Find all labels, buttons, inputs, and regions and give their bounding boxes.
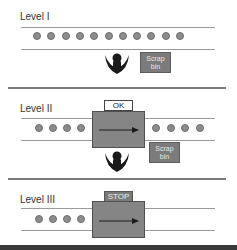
part-ball [49,124,57,132]
part-ball [35,215,43,223]
part-ball [167,124,175,132]
machine-box [92,111,145,148]
part-ball [119,32,127,40]
part-ball [90,32,98,40]
part-ball [181,124,189,132]
conveyor-top-line [21,27,215,28]
part-ball [35,124,43,132]
flow-arrow-icon [99,217,139,225]
part-ball [77,124,85,132]
part-ball [33,32,41,40]
scrap-bin: Scrap bin [149,142,180,163]
bottom-border [0,245,237,250]
part-ball [62,32,70,40]
part-ball [77,215,85,223]
scrap-bin-label-line2: bin [150,153,179,161]
scrap-bin-label-line1: Scrap [141,55,170,63]
machine-box [92,201,145,238]
part-ball [49,215,57,223]
operator-icon [103,150,131,174]
part-ball [47,32,55,40]
scrap-bin-label-line2: bin [141,63,170,71]
part-ball [196,124,204,132]
operator-icon [103,52,131,76]
level-3-label: Level III [20,194,55,205]
part-ball [133,32,141,40]
part-ball [147,32,155,40]
part-ball [63,215,71,223]
scrap-bin: Scrap bin [140,52,171,73]
ok-status-tag: OK [104,100,133,111]
section-divider [8,87,226,89]
section-divider [8,178,226,180]
part-ball [176,32,184,40]
scrap-bin-label-line1: Scrap [150,145,179,153]
part-ball [152,124,160,132]
conveyor-bottom-line [21,49,215,50]
part-ball [105,32,113,40]
part-ball [76,32,84,40]
level-2-label: Level II [20,103,52,114]
part-ball [162,32,170,40]
level-1-label: Level I [20,11,49,22]
flow-arrow-icon [99,126,139,134]
part-ball [63,124,71,132]
